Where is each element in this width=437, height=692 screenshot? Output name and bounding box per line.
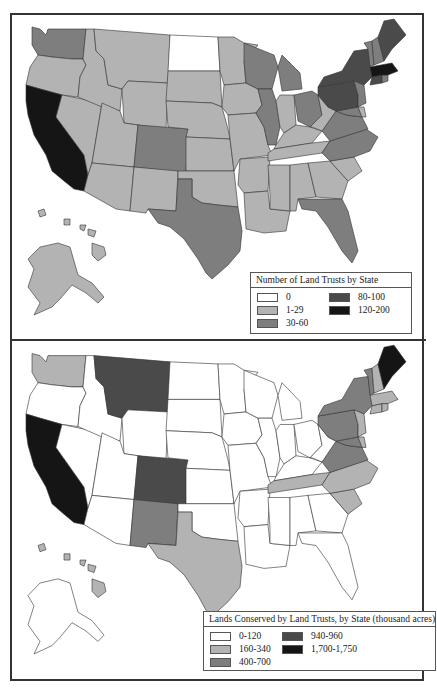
state-wi: [244, 370, 278, 418]
legend-swatch: [210, 645, 231, 654]
legend-swatch: [329, 293, 350, 302]
legend-title: Lands Conserved by Land Trusts, by State…: [204, 612, 435, 627]
state-wi: [244, 43, 278, 89]
state-me: [378, 19, 406, 61]
legend-swatch: [257, 293, 278, 302]
state-nd: [168, 35, 220, 71]
state-fl: [298, 199, 358, 263]
map-panel-lands-conserved: Lands Conserved by Land Trusts, by State…: [12, 341, 424, 679]
state-ri: [382, 404, 388, 412]
state-wy: [122, 81, 168, 129]
state-ar: [238, 157, 270, 193]
legend-item: 1,700-1,750: [282, 644, 357, 654]
legend-swatch: [282, 632, 303, 641]
state-nm: [130, 500, 178, 548]
state-mi: [278, 383, 302, 421]
legend-item: 160-340: [210, 644, 271, 654]
legend-title: Number of Land Trusts by State: [251, 273, 411, 288]
legend-item: 80-100: [329, 292, 385, 302]
legend-item: 120-200: [329, 305, 390, 315]
legend-item: 940-960: [282, 631, 343, 641]
legend-swatch: [282, 645, 303, 654]
legend: Lands Conserved by Land Trusts, by State…: [203, 611, 436, 671]
state-ny: [318, 376, 372, 416]
legend-item: 400-700: [210, 657, 271, 667]
state-nd: [168, 362, 220, 400]
legend: Number of Land Trusts by State 0 1-29 30…: [250, 272, 412, 334]
legend-item: 1-29: [257, 305, 303, 315]
state-wa: [32, 27, 86, 59]
legend-swatch: [257, 306, 278, 315]
legend-item: 0-120: [210, 631, 261, 641]
legend-swatch: [210, 658, 231, 667]
legend-item: 30-60: [257, 318, 308, 328]
state-ms: [268, 165, 290, 211]
state-mi: [278, 55, 302, 91]
state-wy: [122, 410, 168, 460]
state-me: [378, 345, 406, 389]
state-ks: [186, 468, 234, 503]
state-ri: [382, 75, 388, 83]
state-wa: [32, 354, 86, 387]
state-ny: [318, 49, 372, 87]
state-ms: [268, 497, 290, 545]
state-co: [134, 456, 188, 506]
state-ar: [238, 489, 270, 527]
state-nm: [130, 167, 178, 213]
state-ks: [186, 137, 234, 171]
state-fl: [298, 533, 358, 600]
legend-swatch: [257, 319, 278, 328]
legend-item: 0: [257, 292, 291, 302]
legend-swatch: [210, 632, 231, 641]
state-co: [134, 125, 188, 173]
state-az: [84, 495, 134, 545]
map-panel-land-trust-count: Number of Land Trusts by State 0 1-29 30…: [12, 15, 424, 339]
legend-swatch: [329, 306, 350, 315]
state-az: [84, 163, 134, 211]
